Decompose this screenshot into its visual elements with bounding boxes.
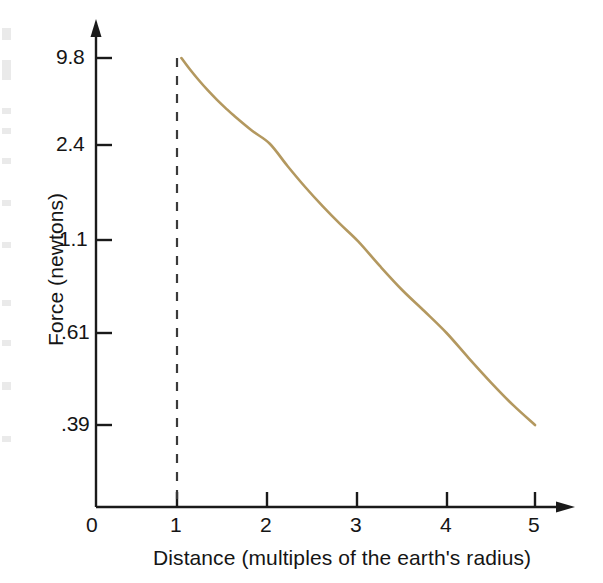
x-tick-label-3: 3 <box>350 513 361 537</box>
x-tick-label-5: 5 <box>528 513 539 537</box>
x-tick-label-4: 4 <box>440 513 451 537</box>
chart-figure: 9.8 2.4 1.1 .61 .39 0 1 2 3 4 5 Force (n… <box>0 0 603 583</box>
x-tick-label-2: 2 <box>260 513 271 537</box>
x-axis-arrowhead <box>556 502 575 513</box>
x-tick-label-1: 1 <box>170 513 181 537</box>
x-axis-ticks <box>177 492 535 507</box>
force-curve <box>181 58 535 425</box>
y-tick-label-1: 2.4 <box>56 132 85 156</box>
y-axis-title: Force (newtons) <box>44 193 68 346</box>
x-tick-label-0: 0 <box>86 513 97 537</box>
y-tick-label-0: 9.8 <box>56 45 85 69</box>
y-axis-ticks <box>96 58 112 425</box>
x-axis-title: Distance (multiples of the earth's radiu… <box>153 546 531 570</box>
y-axis-arrowhead <box>91 19 102 37</box>
plot-canvas <box>0 0 603 583</box>
y-tick-label-4: .39 <box>61 412 90 436</box>
